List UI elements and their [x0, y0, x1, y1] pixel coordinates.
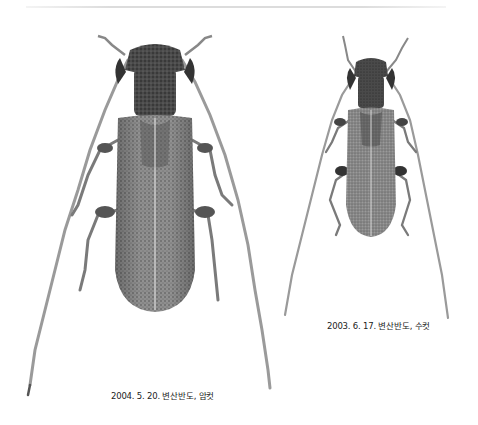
male-pronotum — [358, 76, 384, 108]
mid-leg-left — [72, 140, 118, 215]
male-specimen-caption: 2003. 6. 17. 변산반도, 수컷 — [327, 319, 430, 331]
front-leg-right-tip — [185, 36, 212, 55]
female-specimen-caption: 2004. 5. 20. 변산반도, 암컷 — [111, 389, 214, 401]
antenna-right — [387, 75, 448, 318]
hind-leg-left — [80, 210, 118, 290]
antenna-left — [28, 60, 128, 395]
antenna-right — [182, 60, 270, 388]
female-beetle-specimen — [0, 0, 300, 400]
front-leg-left-tip — [343, 36, 356, 72]
front-leg-left-tip — [98, 36, 125, 55]
antenna-left — [285, 75, 355, 315]
front-leg-right-tip — [386, 38, 408, 72]
hind-leg-right — [192, 210, 218, 300]
female-pronotum — [134, 68, 176, 116]
male-beetle-specimen — [270, 20, 470, 330]
male-head — [354, 58, 388, 79]
